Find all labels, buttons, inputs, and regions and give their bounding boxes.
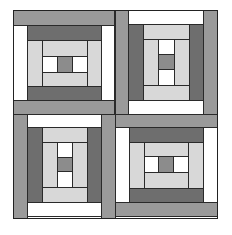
outer-bottom-strip — [13, 100, 115, 115]
quilt-block-top-left — [13, 10, 115, 114]
mid-left-strip — [27, 127, 43, 203]
inner-left-strip — [129, 142, 145, 189]
center-left-square — [144, 156, 159, 173]
inner-top-strip — [144, 142, 189, 157]
outer-right-strip — [101, 114, 116, 219]
mid-bottom-strip — [27, 86, 102, 101]
inner-right-strip — [72, 142, 88, 188]
outer-right-strip — [203, 10, 218, 115]
outer-bottom-strip — [27, 202, 102, 217]
outer-top-strip — [115, 114, 218, 128]
center-bottom-square — [158, 69, 175, 86]
inner-right-strip — [87, 40, 102, 87]
mid-top-strip — [129, 127, 204, 143]
center-top-square — [158, 39, 175, 55]
inner-top-strip — [42, 127, 88, 143]
outer-left-strip — [13, 25, 28, 101]
inner-top-strip — [42, 40, 88, 57]
outer-left-strip — [115, 10, 129, 115]
inner-bottom-strip — [42, 187, 88, 203]
center-square — [158, 54, 175, 70]
center-square — [57, 56, 73, 73]
mid-right-strip — [189, 24, 204, 101]
quilt — [13, 10, 218, 219]
mid-top-strip — [27, 25, 102, 41]
outer-bottom-strip — [128, 100, 204, 115]
inner-right-strip — [188, 142, 204, 189]
outer-top-strip — [128, 10, 204, 25]
center-top-square — [57, 142, 73, 158]
outer-top-strip — [13, 10, 115, 26]
center-square — [57, 157, 73, 172]
inner-bottom-strip — [143, 85, 190, 101]
inner-left-strip — [27, 40, 43, 87]
center-left-square — [42, 56, 58, 73]
center-right-square — [173, 156, 189, 173]
outer-left-strip — [115, 127, 130, 203]
mid-left-strip — [128, 24, 144, 101]
outer-left-strip — [13, 114, 28, 219]
quilt-block-bottom-left — [13, 114, 115, 218]
inner-top-strip — [143, 24, 190, 40]
center-square — [158, 156, 174, 173]
outer-top-strip — [27, 114, 102, 128]
center-right-square — [72, 56, 88, 73]
outer-right-strip — [203, 127, 218, 203]
inner-left-strip — [143, 39, 159, 86]
outer-bottom-strip — [115, 202, 218, 217]
center-bottom-square — [57, 171, 73, 188]
inner-right-strip — [174, 39, 190, 86]
inner-left-strip — [42, 142, 58, 188]
mid-bottom-strip — [129, 188, 204, 203]
quilt-block-top-right — [115, 10, 217, 114]
quilt-block-bottom-right — [115, 114, 217, 218]
outer-right-strip — [101, 25, 115, 101]
inner-bottom-strip — [42, 72, 88, 87]
inner-bottom-strip — [144, 172, 189, 189]
mid-right-strip — [87, 127, 102, 203]
